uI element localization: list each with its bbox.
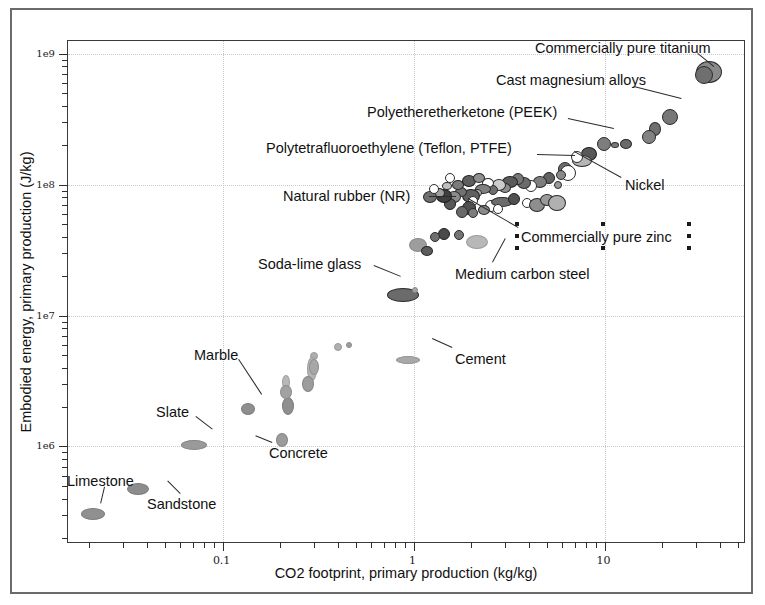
data-point[interactable]: [456, 206, 468, 218]
data-point[interactable]: [241, 403, 255, 415]
y-tick-major: [59, 54, 68, 55]
selection-handle[interactable]: [515, 234, 519, 238]
data-point[interactable]: [81, 508, 105, 520]
data-point[interactable]: [442, 182, 452, 190]
x-tick-minor: [696, 542, 697, 548]
y-tick-minor: [62, 322, 68, 323]
annotation-slate[interactable]: Slate: [156, 405, 189, 421]
y-tick-minor: [62, 538, 68, 539]
y-tick-minor: [62, 145, 68, 146]
annotation-ptfe[interactable]: Polytetrafluoroethylene (Teflon, PTFE): [266, 141, 512, 157]
annotation-zinc[interactable]: Commercially pure zinc: [521, 230, 672, 246]
y-tick-label: 1e7: [36, 309, 55, 320]
y-tick-minor: [62, 515, 68, 516]
x-tick-minor: [214, 542, 215, 548]
data-point[interactable]: [556, 170, 566, 180]
x-tick-minor: [314, 542, 315, 548]
data-point[interactable]: [597, 137, 611, 151]
x-tick-label: 10: [597, 554, 611, 567]
y-tick-major: [59, 446, 68, 447]
data-point[interactable]: [548, 195, 566, 211]
x-tick-minor: [562, 542, 563, 548]
annotation-magnesium[interactable]: Cast magnesium alloys: [496, 73, 646, 89]
annotation-sandstone[interactable]: Sandstone: [147, 497, 216, 513]
data-point[interactable]: [466, 235, 488, 249]
x-tick-minor: [505, 542, 506, 548]
y-tick-minor: [62, 237, 68, 238]
data-point[interactable]: [346, 342, 352, 348]
data-point[interactable]: [421, 246, 433, 256]
data-point[interactable]: [508, 193, 520, 205]
x-tick-minor: [405, 542, 406, 548]
y-axis-title: Embodied energy, primary production (J/k…: [14, 40, 36, 543]
x-tick-minor: [575, 542, 576, 548]
gridline-vertical: [223, 41, 224, 542]
data-point[interactable]: [181, 440, 207, 450]
annotation-marble[interactable]: Marble: [194, 348, 238, 364]
y-tick-minor: [62, 205, 68, 206]
data-point[interactable]: [309, 359, 319, 375]
y-tick-minor: [62, 93, 68, 94]
x-tick-minor: [662, 542, 663, 548]
x-tick-minor: [547, 542, 548, 548]
x-tick-minor: [371, 542, 372, 548]
x-tick-minor: [384, 542, 385, 548]
annotation-concrete[interactable]: Concrete: [269, 446, 328, 462]
x-tick-minor: [356, 542, 357, 548]
y-tick-minor: [62, 197, 68, 198]
annotation-peek[interactable]: Polyetheretherketone (PEEK): [367, 105, 557, 121]
data-point[interactable]: [334, 343, 342, 351]
data-point[interactable]: [611, 142, 619, 148]
data-point[interactable]: [468, 208, 478, 218]
y-tick-minor: [62, 214, 68, 215]
y-tick-label: 1e8: [36, 178, 55, 189]
x-tick-minor: [89, 542, 90, 548]
annotation-rubber[interactable]: Natural rubber (NR): [283, 189, 410, 205]
data-point[interactable]: [454, 230, 464, 240]
selection-handle[interactable]: [687, 222, 691, 226]
selection-handle[interactable]: [515, 246, 519, 250]
annotation-limestone[interactable]: Limestone: [67, 474, 134, 490]
data-point[interactable]: [302, 376, 314, 392]
x-axis-title: CO2 footprint, primary production (kg/kg…: [67, 565, 745, 581]
annotation-cement[interactable]: Cement: [455, 352, 506, 368]
x-tick-minor: [338, 542, 339, 548]
annotation-glass[interactable]: Soda-lime glass: [258, 257, 361, 273]
data-point[interactable]: [620, 139, 632, 149]
selection-handle[interactable]: [687, 234, 691, 238]
data-point[interactable]: [396, 356, 420, 364]
data-point[interactable]: [554, 181, 562, 189]
data-point[interactable]: [412, 287, 418, 293]
annotation-steel[interactable]: Medium carbon steel: [455, 267, 590, 283]
data-point[interactable]: [430, 232, 440, 242]
selection-handle[interactable]: [687, 246, 691, 250]
y-tick-minor: [62, 328, 68, 329]
y-tick-minor: [62, 191, 68, 192]
y-tick-minor: [62, 355, 68, 356]
data-point[interactable]: [429, 184, 439, 194]
data-point[interactable]: [438, 228, 450, 240]
y-tick-minor: [62, 106, 68, 107]
y-tick-minor: [62, 452, 68, 453]
x-tick-minor: [395, 542, 396, 548]
y-tick-minor: [62, 66, 68, 67]
annotation-nickel[interactable]: Nickel: [625, 178, 664, 194]
y-tick-minor: [62, 459, 68, 460]
x-tick-minor: [720, 542, 721, 548]
data-point[interactable]: [282, 397, 294, 415]
x-tick-major: [223, 542, 224, 551]
data-point[interactable]: [662, 109, 678, 125]
x-tick-minor: [529, 542, 530, 548]
data-point[interactable]: [695, 66, 713, 84]
x-tick-major: [414, 542, 415, 551]
annotation-titanium[interactable]: Commercially pure titanium: [535, 41, 711, 57]
x-tick-minor: [596, 542, 597, 548]
selection-handle[interactable]: [601, 246, 605, 250]
x-tick-major: [605, 542, 606, 551]
x-tick-label: 0.1: [213, 554, 231, 567]
x-tick-minor: [123, 542, 124, 548]
x-tick-label: 1: [409, 554, 416, 567]
selection-handle[interactable]: [601, 222, 605, 226]
data-point[interactable]: [642, 130, 656, 144]
leader-line-rubber: [429, 196, 456, 197]
